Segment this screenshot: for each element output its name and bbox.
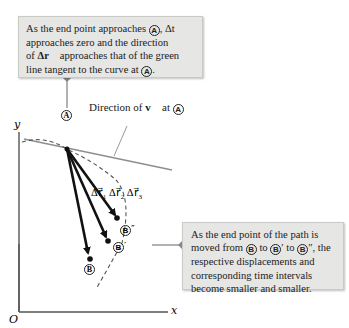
point-a-dot xyxy=(65,147,70,152)
vector-label-1: Δr⃗1 xyxy=(91,187,106,198)
point-b-label: B xyxy=(84,264,95,275)
callout-tangent-explanation: As the end point approaches A, Δt approa… xyxy=(18,16,203,78)
point-b-prime-dot xyxy=(105,238,111,244)
point-b-double-prime-label: B″ xyxy=(120,223,135,236)
point-b-prime-label: B′ xyxy=(113,240,126,253)
origin-label: O xyxy=(9,313,18,326)
tangent-line xyxy=(24,139,172,170)
callout-displacement-explanation: As the end point of the path is moved fr… xyxy=(182,222,344,290)
axes xyxy=(19,132,168,312)
vector-label-2: Δr⃗2 xyxy=(109,187,124,198)
tangent-label-leader xyxy=(114,126,127,156)
vector-label-3: Δr⃗3 xyxy=(127,187,142,198)
point-b-double-prime-dot xyxy=(114,215,120,221)
point-b-dot xyxy=(87,256,93,262)
vector-labels: Δr⃗1 Δr⃗2 Δr⃗3 xyxy=(91,186,142,201)
y-axis-label: y xyxy=(14,118,20,131)
tangent-label: Direction of v⃗ at A xyxy=(89,101,184,115)
point-a-label: A xyxy=(61,110,72,121)
x-axis-label: x xyxy=(171,304,177,317)
